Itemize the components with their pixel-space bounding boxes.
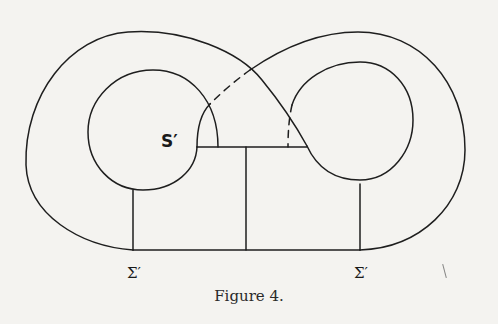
sigma-left-label: Σ′ [127, 264, 141, 282]
inner-left-arc [197, 104, 210, 147]
right-inner-circle [292, 62, 413, 180]
surface-label: S′ [161, 131, 178, 151]
figure-caption: Figure 4. [0, 287, 498, 305]
crossing-lower-dashed [288, 105, 292, 147]
figure-4-diagram [0, 0, 498, 324]
crossing-upper-dashed [210, 70, 250, 104]
sigma-right-label: Σ′ [354, 264, 368, 282]
outer-right-curve [250, 32, 465, 250]
